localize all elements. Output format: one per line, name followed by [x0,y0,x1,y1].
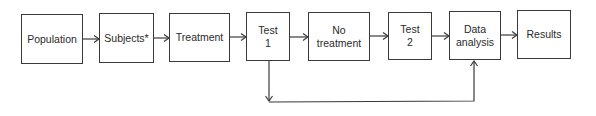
node-no-treatment: No treatment [308,12,370,61]
node-results: Results [517,10,571,59]
node-label: Treatment [176,31,223,44]
node-treatment: Treatment [169,13,230,62]
connector-arrows [0,0,596,116]
node-test-1: Test 1 [246,12,290,61]
node-test-2: Test 2 [388,12,432,60]
node-subjects: Subjects* [99,13,154,63]
node-label: Subjects* [104,32,148,45]
node-label: Test 2 [400,23,419,49]
node-label: Test 1 [258,24,277,50]
node-label: Results [526,28,561,41]
node-population: Population [21,14,83,64]
node-label: No treatment [317,24,361,50]
node-label: Population [27,33,77,46]
node-data-analysis: Data analysis [449,11,501,60]
node-label: Data analysis [456,23,494,49]
